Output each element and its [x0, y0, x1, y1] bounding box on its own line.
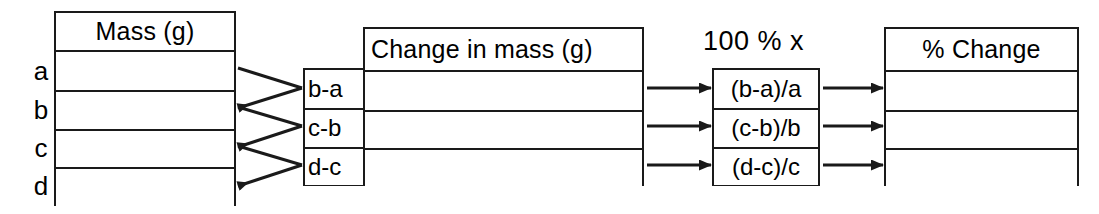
formula-b-minus-a-over-a: (b-a)/a: [714, 70, 818, 108]
difference-label-b-minus-a: b-a: [305, 70, 363, 108]
change-in-mass-table: Change in mass (g): [363, 27, 644, 186]
change-in-mass-header: Change in mass (g): [365, 29, 642, 72]
change-in-mass-cell-3[interactable]: [365, 148, 642, 186]
mass-table-cell-d[interactable]: [56, 167, 234, 205]
change-in-mass-cell-1[interactable]: [365, 72, 642, 110]
formula-d-minus-c-over-c: (d-c)/c: [714, 147, 818, 185]
percent-change-cell-2[interactable]: [886, 110, 1077, 148]
connector-group-b-minus-a: [238, 68, 302, 108]
percent-change-cell-1[interactable]: [886, 72, 1077, 110]
mass-row-label-b: b: [30, 97, 52, 123]
mass-table-cell-b[interactable]: [56, 90, 234, 128]
mass-table-cell-a[interactable]: [56, 52, 234, 90]
mass-table-header: Mass (g): [56, 13, 234, 52]
percent-change-table: % Change: [884, 27, 1079, 186]
flow-diagram: a b c d Mass (g) b-a c-b d-c Change in m…: [0, 0, 1099, 214]
mass-table: Mass (g): [54, 11, 236, 206]
formula-column: (b-a)/a (c-b)/b (d-c)/c: [712, 68, 820, 186]
mass-table-cell-c[interactable]: [56, 129, 234, 167]
mass-row-label-c: c: [30, 135, 52, 161]
percent-change-header: % Change: [886, 29, 1077, 72]
difference-label-column: b-a c-b d-c: [303, 68, 365, 186]
connector-group-d-minus-c: [238, 146, 302, 186]
difference-label-d-minus-c: d-c: [305, 147, 363, 185]
percent-multiplier-caption: 100 % x: [703, 26, 804, 57]
difference-label-c-minus-b: c-b: [305, 108, 363, 146]
formula-c-minus-b-over-b: (c-b)/b: [714, 108, 818, 146]
connector-group-c-minus-b: [238, 107, 302, 147]
change-in-mass-cell-2[interactable]: [365, 110, 642, 148]
mass-row-label-a: a: [30, 58, 52, 84]
percent-change-cell-3[interactable]: [886, 148, 1077, 186]
mass-row-label-d: d: [30, 173, 52, 199]
